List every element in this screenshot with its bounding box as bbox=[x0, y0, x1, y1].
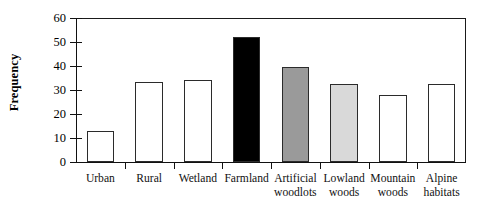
x-axis-category-label-line: habitats bbox=[417, 186, 466, 200]
y-axis-tick-label: 60 bbox=[40, 12, 66, 25]
x-axis-category-label-line: woods bbox=[320, 186, 369, 200]
bar bbox=[379, 95, 406, 162]
x-axis-category-label-line: Artificial bbox=[271, 172, 320, 186]
y-axis-title-label: Frequency bbox=[8, 54, 23, 112]
x-axis-category-label-line: Mountain bbox=[369, 172, 418, 186]
x-axis-category-label: Farmland bbox=[222, 172, 271, 186]
x-axis-category-label: Alpinehabitats bbox=[417, 172, 466, 199]
y-axis-tick-label: 0 bbox=[40, 156, 66, 169]
bar bbox=[428, 84, 455, 162]
x-axis-tick bbox=[271, 162, 272, 169]
x-axis-category-label: Artificialwoodlots bbox=[271, 172, 320, 199]
bar bbox=[184, 80, 211, 162]
x-axis-category-label-line: woods bbox=[369, 186, 418, 200]
bars-layer bbox=[76, 18, 466, 162]
bar bbox=[87, 131, 114, 162]
y-axis-tick-label: 40 bbox=[40, 60, 66, 73]
x-axis-category-label: Wetland bbox=[174, 172, 223, 186]
y-axis-title: Frequency bbox=[0, 0, 30, 165]
x-axis-category-label-line: woodlots bbox=[271, 186, 320, 200]
x-axis-tick bbox=[125, 162, 126, 169]
x-axis-category-label: Lowlandwoods bbox=[320, 172, 369, 199]
y-axis-tick-label: 30 bbox=[40, 84, 66, 97]
x-axis-category-label-line: Urban bbox=[76, 172, 125, 186]
x-axis-category-labels: UrbanRuralWetlandFarmlandArtificialwoodl… bbox=[76, 172, 466, 213]
y-axis-tick-label: 10 bbox=[40, 132, 66, 145]
bar bbox=[233, 37, 260, 162]
y-axis-tick-label: 50 bbox=[40, 36, 66, 49]
x-axis-category-label-line: Farmland bbox=[222, 172, 271, 186]
y-axis-tick bbox=[70, 162, 82, 163]
x-axis-category-label-line: Wetland bbox=[174, 172, 223, 186]
x-axis-tick bbox=[222, 162, 223, 169]
x-axis-tick bbox=[320, 162, 321, 169]
bar bbox=[282, 67, 309, 162]
y-axis-tick-label: 20 bbox=[40, 108, 66, 121]
frequency-bar-chart: Frequency 0102030405060 UrbanRuralWetlan… bbox=[0, 0, 489, 213]
x-axis-category-label-line: Lowland bbox=[320, 172, 369, 186]
bar bbox=[330, 84, 357, 162]
x-axis-category-label: Rural bbox=[125, 172, 174, 186]
bar bbox=[135, 82, 162, 162]
x-axis-category-label: Mountainwoods bbox=[369, 172, 418, 199]
x-axis-category-label-line: Alpine bbox=[417, 172, 466, 186]
x-axis-category-label: Urban bbox=[76, 172, 125, 186]
x-axis-tick bbox=[174, 162, 175, 169]
x-axis-category-label-line: Rural bbox=[125, 172, 174, 186]
x-axis-tick bbox=[369, 162, 370, 169]
x-axis-tick bbox=[417, 162, 418, 169]
